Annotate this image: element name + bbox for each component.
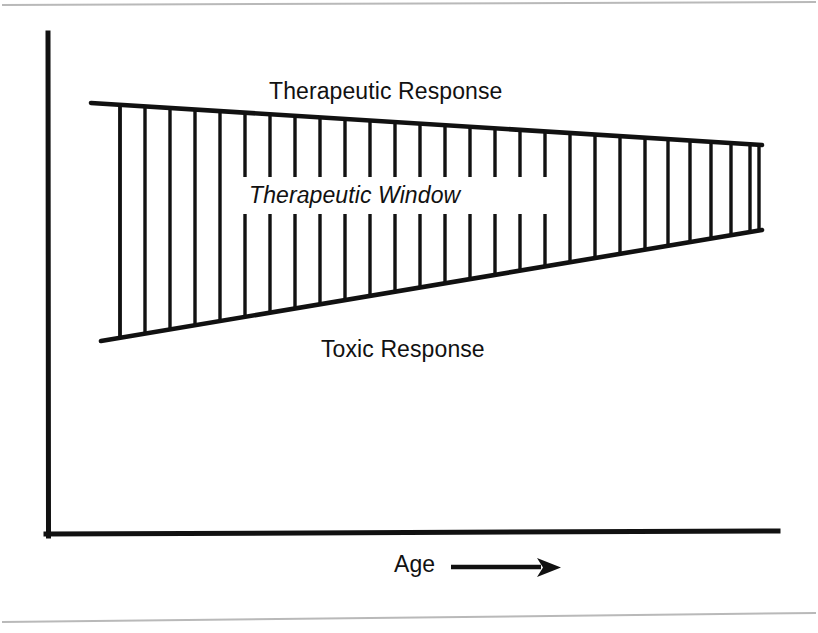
therapeutic-window-wedge: [91, 90, 762, 355]
toxic-response-label: Toxic Response: [321, 338, 485, 361]
therapeutic-window-label: Therapeutic Window: [249, 184, 460, 207]
therapeutic-response-line: [91, 103, 762, 145]
toxic-response-line: [101, 230, 762, 341]
x-axis-label: Age: [394, 553, 435, 576]
hatch-lines: [120, 90, 750, 355]
y-axis-line: [48, 33, 49, 536]
arrow-right-icon: [449, 556, 561, 580]
therapeutic-response-label: Therapeutic Response: [269, 80, 502, 103]
scan-edge-top: [2, 2, 816, 5]
scan-edge-bottom: [2, 613, 816, 622]
x-axis-line: [46, 531, 778, 534]
figure-root: Therapeutic Response Therapeutic Window …: [0, 0, 818, 633]
